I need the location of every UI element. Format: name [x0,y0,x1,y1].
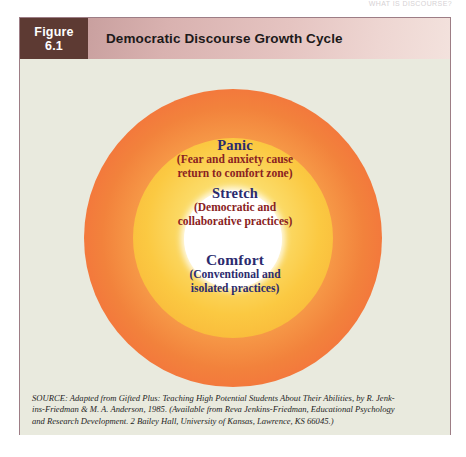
ring-label-panic-sub2: return to comfort zone) [20,167,450,181]
figure-number-value: 6.1 [45,39,63,53]
source-note: SOURCE: Adapted from Gifted Plus: Teachi… [32,393,438,427]
source-note-line-2: ins-Friedman & M. A. Anderson, 1985. (Av… [32,404,438,415]
ring-label-comfort: Comfort (Conventional and isolated pract… [20,252,450,295]
ring-label-comfort-sub1: (Conventional and [20,268,450,282]
figure-number-word: Figure [34,25,73,39]
ring-label-comfort-heading: Comfort [20,252,450,268]
figure-body: Panic (Fear and anxiety cause return to … [20,59,450,435]
concentric-circle-diagram: Panic (Fear and anxiety cause return to … [20,59,450,435]
ring-label-panic-sub1: (Fear and anxiety cause [20,153,450,167]
ring-label-stretch-heading: Stretch [20,185,450,201]
source-note-line-3: and Research Development. 2 Bailey Hall,… [32,416,438,427]
source-note-line-1: SOURCE: Adapted from Gifted Plus: Teachi… [32,393,438,404]
ring-label-panic-heading: Panic [20,137,450,153]
ring-label-stretch-sub2: collaborative practices) [20,215,450,229]
page-title: Democratic Discourse Growth Cycle [106,31,343,46]
ring-label-panic: Panic (Fear and anxiety cause return to … [20,137,450,180]
figure-frame: Figure 6.1 Democratic Discourse Growth C… [19,17,451,435]
figure-header: Figure 6.1 Democratic Discourse Growth C… [20,18,450,59]
figure-number-block: Figure 6.1 [20,18,88,59]
ring-label-stretch-sub1: (Democratic and [20,201,450,215]
ring-label-comfort-sub2: isolated practices) [20,282,450,296]
ring-label-stretch: Stretch (Democratic and collaborative pr… [20,185,450,228]
running-head: WHAT IS DISCOURSE? [369,0,452,8]
figure-title-bar: Democratic Discourse Growth Cycle [88,18,450,59]
